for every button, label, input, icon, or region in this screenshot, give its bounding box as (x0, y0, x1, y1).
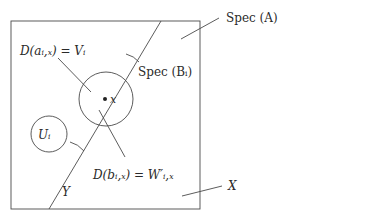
d-b-label: D(bᵢ,ₓ) = W′ᵢ,ₓ (92, 168, 174, 182)
d-a-leader-line (58, 58, 91, 92)
u-i-label: Uᵢ (38, 128, 51, 142)
spec-a-label: Spec (A) (226, 11, 278, 25)
point-x-label: x (110, 93, 117, 106)
x-space-label: X (227, 179, 237, 193)
spec-b-label: Spec (Bᵢ) (138, 65, 192, 79)
scheme-diagram: x Uᵢ D(aᵢ,ₓ) = Vᵢ D(bᵢ,ₓ) = W′ᵢ,ₓ Spec (… (0, 0, 377, 220)
d-a-label: D(aᵢ,ₓ) = Vᵢ (19, 44, 86, 58)
point-x-dot (103, 97, 107, 101)
y-label: Y (62, 185, 71, 199)
d-b-leader-line (99, 110, 125, 157)
u-i-arc-mark (70, 142, 84, 151)
x-space-leader-line (182, 186, 222, 196)
